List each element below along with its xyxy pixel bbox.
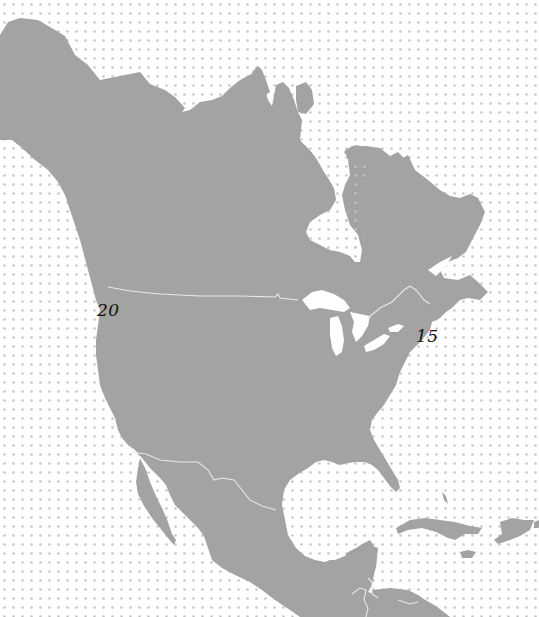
map-label-east: 15 (416, 328, 439, 345)
map-container: 20 15 (0, 0, 539, 617)
map-label-west: 20 (97, 302, 120, 319)
north-america-map (0, 0, 539, 617)
